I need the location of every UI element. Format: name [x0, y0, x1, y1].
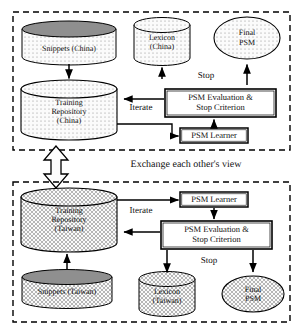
lexicon-china-node[interactable] [134, 18, 190, 66]
psm-evaluation-taiwan-node[interactable] [161, 221, 272, 249]
training-repository-taiwan-node[interactable] [21, 188, 117, 252]
diagram-svg [0, 0, 302, 333]
snippets-china-top [22, 21, 116, 37]
arrow-training-to-learner-china [117, 124, 179, 136]
psm-evaluation-china-node[interactable] [165, 89, 276, 117]
panel-china [13, 12, 290, 150]
training-repository-china-node[interactable] [21, 80, 117, 140]
psm-learner-china-node[interactable] [180, 128, 248, 143]
final-psm-china-node[interactable] [214, 17, 280, 59]
panel-taiwan [13, 182, 290, 322]
snippets-taiwan-node[interactable] [22, 270, 112, 309]
diagram-canvas: Snippets (China) Lexicon (China) Final P… [0, 0, 302, 333]
psm-learner-taiwan-node[interactable] [180, 192, 248, 207]
final-psm-taiwan-node[interactable] [222, 276, 284, 312]
snippets-china-node[interactable] [22, 21, 116, 65]
lexicon-taiwan-node[interactable] [139, 272, 195, 317]
